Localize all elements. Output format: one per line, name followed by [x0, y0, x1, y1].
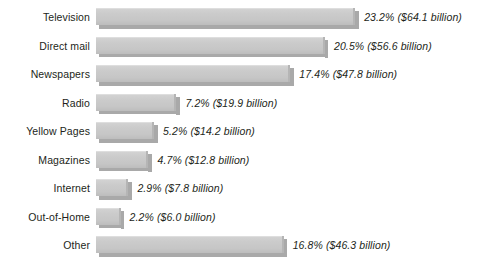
value-label: 23.2% ($64.1 billion) — [364, 9, 462, 26]
bar — [96, 37, 325, 54]
category-label: Radio — [0, 95, 90, 112]
category-label: Yellow Pages — [0, 123, 90, 140]
bar-right-edge — [119, 208, 121, 225]
category-label: Newspapers — [0, 66, 90, 83]
bar-shadow-bottom — [99, 196, 131, 200]
category-label: Other — [0, 237, 90, 254]
bar-container — [96, 8, 359, 29]
bar-container — [96, 236, 288, 257]
bar-container — [96, 208, 125, 229]
bar-shadow-bottom — [99, 168, 151, 172]
bar-shadow-right — [121, 211, 125, 229]
bar-container — [96, 37, 329, 58]
value-label: 2.2% ($6.0 billion) — [130, 209, 216, 226]
bar-row: Other16.8% ($46.3 billion) — [0, 235, 483, 264]
bar-right-edge — [126, 179, 128, 196]
bar-shadow-bottom — [99, 82, 293, 86]
bar-right-edge — [353, 8, 355, 25]
bar-container — [96, 151, 152, 172]
bar-shadow-right — [284, 239, 288, 257]
bar-shadow-right — [290, 68, 294, 86]
category-label: Out-of-Home — [0, 209, 90, 226]
category-label: Magazines — [0, 152, 90, 169]
value-label: 17.4% ($47.8 billion) — [299, 66, 397, 83]
bar-row: Television23.2% ($64.1 billion) — [0, 7, 483, 36]
bar-row: Radio7.2% ($19.9 billion) — [0, 93, 483, 122]
value-label: 5.2% ($14.2 billion) — [163, 123, 255, 140]
value-label: 20.5% ($56.6 billion) — [334, 38, 432, 55]
bar — [96, 236, 284, 253]
chart-rows: Television23.2% ($64.1 billion)Direct ma… — [0, 7, 483, 264]
bar-shadow-right — [128, 182, 132, 200]
horizontal-bar-chart: Television23.2% ($64.1 billion)Direct ma… — [0, 0, 483, 271]
bar — [96, 179, 128, 196]
category-label: Direct mail — [0, 38, 90, 55]
bar — [96, 151, 148, 168]
bar-shadow-bottom — [99, 25, 358, 29]
bar-row: Magazines4.7% ($12.8 billion) — [0, 150, 483, 179]
bar-right-edge — [323, 37, 325, 54]
bar-right-edge — [152, 122, 154, 139]
category-label: Internet — [0, 180, 90, 197]
bar — [96, 8, 355, 25]
bar — [96, 65, 290, 82]
bar-shadow-bottom — [99, 139, 157, 143]
bar-row: Yellow Pages5.2% ($14.2 billion) — [0, 121, 483, 150]
bar-container — [96, 122, 158, 143]
bar-right-edge — [146, 151, 148, 168]
bar-row: Newspapers17.4% ($47.8 billion) — [0, 64, 483, 93]
bar-shadow-bottom — [99, 253, 287, 257]
bar-row: Internet2.9% ($7.8 billion) — [0, 178, 483, 207]
bar — [96, 94, 176, 111]
bar-shadow-right — [176, 97, 180, 115]
value-label: 4.7% ($12.8 billion) — [157, 152, 249, 169]
bar-shadow-bottom — [99, 54, 328, 58]
bar-right-edge — [282, 236, 284, 253]
bar-shadow-bottom — [99, 111, 179, 115]
bar-row: Out-of-Home2.2% ($6.0 billion) — [0, 207, 483, 236]
bar-right-edge — [174, 94, 176, 111]
bar-right-edge — [288, 65, 290, 82]
value-label: 16.8% ($46.3 billion) — [293, 237, 391, 254]
bar — [96, 122, 154, 139]
bar — [96, 208, 121, 225]
category-label: Television — [0, 9, 90, 26]
bar-container — [96, 179, 132, 200]
bar-row: Direct mail20.5% ($56.6 billion) — [0, 36, 483, 65]
bar-shadow-right — [154, 125, 158, 143]
bar-shadow-right — [148, 154, 152, 172]
bar-shadow-right — [325, 40, 329, 58]
value-label: 7.2% ($19.9 billion) — [185, 95, 277, 112]
bar-container — [96, 94, 180, 115]
bar-shadow-right — [355, 11, 359, 29]
bar-container — [96, 65, 294, 86]
value-label: 2.9% ($7.8 billion) — [137, 180, 223, 197]
